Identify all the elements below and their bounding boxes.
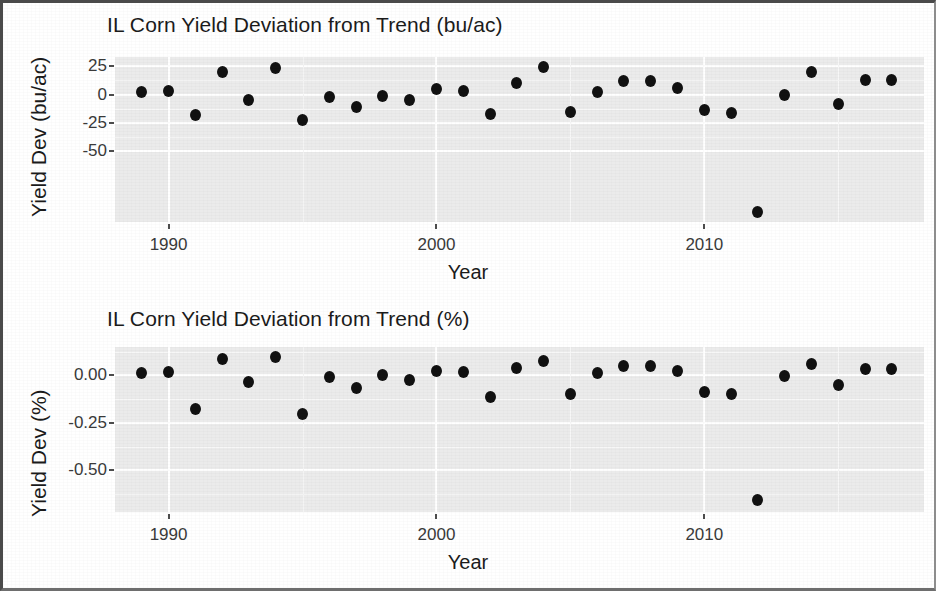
data-point: [699, 104, 710, 116]
data-point: [860, 74, 871, 86]
data-point: [351, 382, 362, 394]
y-tick-mark: [109, 94, 114, 96]
y-tick-mark: [109, 374, 114, 376]
gridline-major-horizontal: [115, 469, 924, 471]
data-point: [886, 74, 897, 86]
data-point: [833, 98, 844, 110]
data-point: [592, 367, 603, 379]
gridline-minor-horizontal: [115, 494, 924, 495]
gridline-minor-horizontal: [115, 447, 924, 448]
figure-page: IL Corn Yield Deviation from Trend (bu/a…: [0, 0, 936, 591]
gridline-major-vertical: [703, 347, 705, 512]
gridline-major-vertical: [435, 57, 437, 222]
data-point: [217, 353, 228, 365]
y-tick-mark: [109, 469, 114, 471]
data-point: [431, 83, 442, 95]
y-tick-mark: [109, 422, 114, 424]
data-point: [565, 106, 576, 118]
data-point: [538, 355, 549, 367]
y-axis-title-percent: Yield Dev (%): [27, 389, 51, 517]
data-point: [136, 367, 147, 379]
data-point: [404, 94, 415, 106]
x-tick-mark: [168, 224, 170, 229]
gridline-minor-vertical: [838, 57, 839, 222]
data-point: [485, 108, 496, 120]
data-point: [297, 408, 308, 420]
y-tick-label: -0.25: [63, 413, 107, 433]
gridline-minor-vertical: [570, 347, 571, 512]
gridline-minor-vertical: [570, 57, 571, 222]
data-point: [324, 371, 335, 383]
data-point: [752, 206, 763, 218]
y-tick-mark: [109, 65, 114, 67]
x-tick-mark: [703, 224, 705, 229]
x-tick-label: 2000: [418, 235, 456, 255]
data-point: [458, 85, 469, 97]
data-point: [136, 86, 147, 98]
chart-title-bu-ac: IL Corn Yield Deviation from Trend (bu/a…: [107, 13, 503, 37]
data-point: [243, 94, 254, 106]
data-point: [190, 403, 201, 415]
data-point: [538, 61, 549, 73]
data-point: [806, 66, 817, 78]
data-point: [163, 366, 174, 378]
data-point: [699, 386, 710, 398]
data-point: [645, 360, 656, 372]
x-axis-title-percent: Year: [3, 551, 933, 574]
data-point: [377, 369, 388, 381]
x-tick-mark: [435, 224, 437, 229]
gridline-minor-horizontal: [115, 137, 924, 138]
gridline-minor-horizontal: [115, 352, 924, 353]
data-point: [672, 82, 683, 94]
x-tick-label: 1990: [150, 235, 188, 255]
x-axis-title-bu-ac: Year: [3, 261, 933, 284]
plot-panel-bu-ac: [115, 57, 924, 222]
y-tick-label: -0.50: [63, 460, 107, 480]
gridline-major-vertical: [168, 57, 170, 222]
chart-title-percent: IL Corn Yield Deviation from Trend (%): [107, 307, 470, 331]
y-tick-mark: [109, 122, 114, 124]
data-point: [726, 388, 737, 400]
data-point: [190, 109, 201, 121]
data-point: [377, 90, 388, 102]
plot-panel-percent: [115, 347, 924, 512]
gridline-minor-vertical: [838, 347, 839, 512]
y-tick-label: 0.00: [63, 365, 107, 385]
y-axis-title-bu-ac: Yield Dev (bu/ac): [27, 57, 51, 217]
gridline-major-horizontal: [115, 150, 924, 152]
chart-percent: IL Corn Yield Deviation from Trend (%) Y…: [3, 299, 933, 589]
data-point: [324, 91, 335, 103]
y-tick-label: -50: [63, 141, 107, 161]
data-point: [752, 494, 763, 506]
data-point: [618, 75, 629, 87]
data-point: [860, 363, 871, 375]
gridline-minor-vertical: [303, 57, 304, 222]
data-point: [779, 89, 790, 101]
data-point: [511, 77, 522, 89]
data-point: [511, 362, 522, 374]
gridline-major-horizontal: [115, 122, 924, 124]
gridline-minor-horizontal: [115, 399, 924, 400]
data-point: [485, 391, 496, 403]
x-tick-label: 2010: [685, 235, 723, 255]
gridline-major-horizontal: [115, 65, 924, 67]
data-point: [592, 86, 603, 98]
y-tick-label: 0: [63, 85, 107, 105]
data-point: [217, 66, 228, 78]
gridline-major-vertical: [703, 57, 705, 222]
y-tick-label: 25: [63, 56, 107, 76]
x-tick-mark: [703, 514, 705, 519]
chart-bu-ac: IL Corn Yield Deviation from Trend (bu/a…: [3, 5, 933, 297]
data-point: [431, 365, 442, 377]
data-point: [270, 62, 281, 74]
x-tick-label: 2010: [685, 525, 723, 545]
data-point: [351, 101, 362, 113]
data-point: [404, 374, 415, 386]
data-point: [726, 107, 737, 119]
data-point: [243, 376, 254, 388]
gridline-major-horizontal: [115, 422, 924, 424]
gridline-minor-vertical: [303, 347, 304, 512]
data-point: [779, 370, 790, 382]
data-point: [806, 358, 817, 370]
x-tick-label: 2000: [418, 525, 456, 545]
